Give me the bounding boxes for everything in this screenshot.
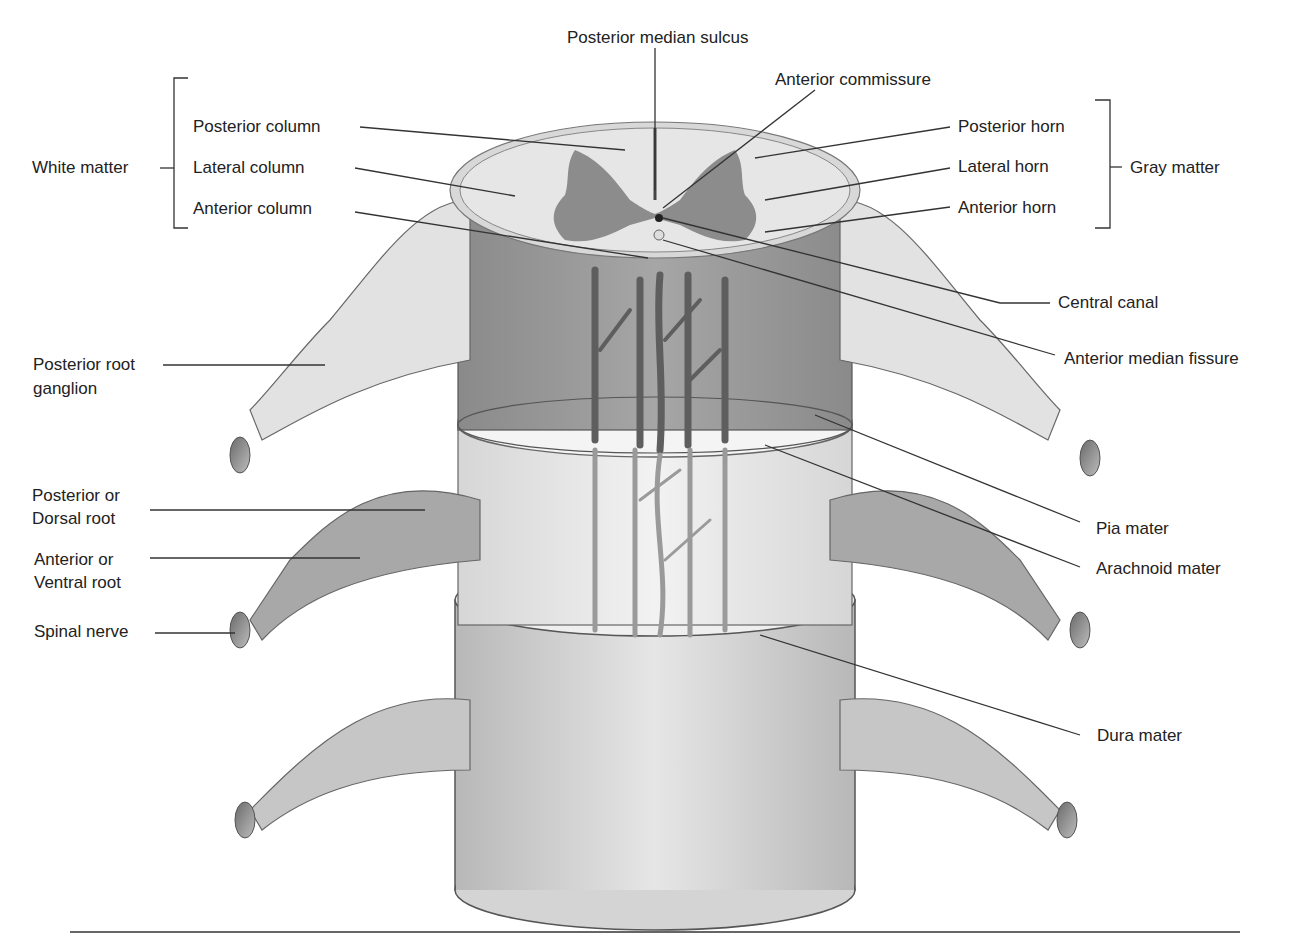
label-posterior-root-ganglion-1: Posterior root (33, 355, 135, 375)
label-arachnoid-mater: Arachnoid mater (1096, 559, 1221, 579)
label-gray-matter: Gray matter (1130, 158, 1220, 178)
label-posterior-median-sulcus: Posterior median sulcus (567, 28, 748, 48)
label-posterior-horn: Posterior horn (958, 117, 1065, 137)
label-anterior-horn: Anterior horn (958, 198, 1056, 218)
label-posterior-column: Posterior column (193, 117, 321, 137)
label-anterior-commissure: Anterior commissure (775, 70, 931, 90)
label-lateral-horn: Lateral horn (958, 157, 1049, 177)
label-posterior-root-ganglion-2: ganglion (33, 379, 97, 399)
label-anterior-column: Anterior column (193, 199, 312, 219)
label-dura-mater: Dura mater (1097, 726, 1182, 746)
label-posterior-dorsal-root-1: Posterior or (32, 486, 120, 506)
spinal-cord-illustration (0, 0, 1307, 943)
label-spinal-nerve: Spinal nerve (34, 622, 129, 642)
label-posterior-dorsal-root-2: Dorsal root (32, 509, 115, 529)
label-central-canal: Central canal (1058, 293, 1158, 313)
label-anterior-ventral-root-2: Ventral root (34, 573, 121, 593)
label-white-matter: White matter (32, 158, 128, 178)
label-anterior-ventral-root-1: Anterior or (34, 550, 113, 570)
label-lateral-column: Lateral column (193, 158, 305, 178)
label-pia-mater: Pia mater (1096, 519, 1169, 539)
label-anterior-median-fissure: Anterior median fissure (1064, 349, 1239, 369)
